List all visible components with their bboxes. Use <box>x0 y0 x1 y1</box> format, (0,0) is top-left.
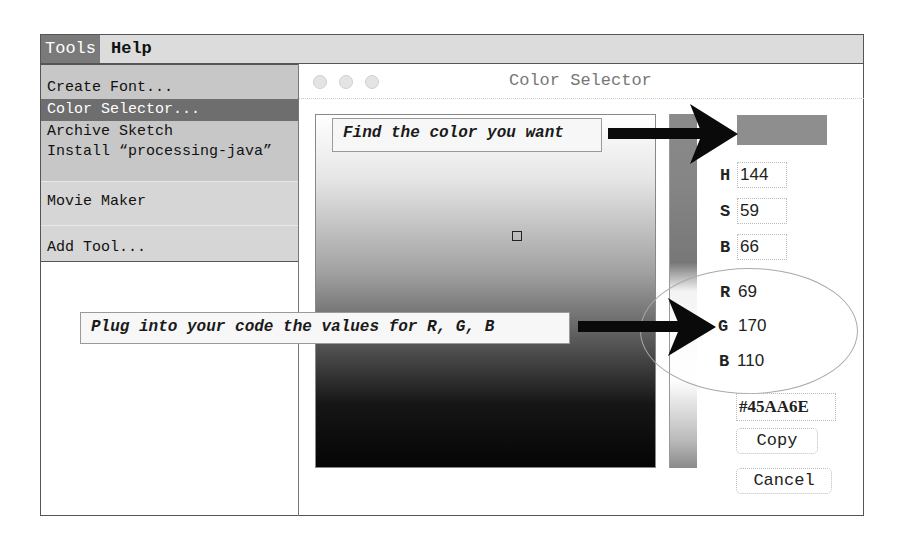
arrow-right-icon <box>668 298 716 356</box>
hex-input[interactable]: #45AA6E <box>736 393 836 421</box>
tools-dropdown: Create Font... Color Selector... Archive… <box>40 64 299 262</box>
saturation-label: S <box>720 202 730 221</box>
menu-item-movie-maker[interactable]: Movie Maker <box>41 191 298 213</box>
menu-item-add-tool[interactable]: Add Tool... <box>41 237 298 259</box>
menu-item-archive-sketch[interactable]: Archive Sketch <box>41 121 298 143</box>
arrow-right-icon <box>690 104 738 164</box>
menu-help[interactable]: Help <box>107 35 156 63</box>
hue-label: H <box>720 166 730 185</box>
menu-item-color-selector[interactable]: Color Selector... <box>41 99 298 121</box>
window-divider <box>298 64 299 516</box>
menu-item-create-font[interactable]: Create Font... <box>41 77 298 99</box>
dialog-title-bar: Color Selector <box>299 64 864 99</box>
close-window-icon[interactable] <box>313 75 327 89</box>
copy-button[interactable]: Copy <box>736 428 818 454</box>
menubar: Tools Help <box>40 34 864 64</box>
brightness-label: B <box>720 238 730 257</box>
hue-input[interactable]: 144 <box>737 162 787 188</box>
callout-plug-values: Plug into your code the values for R, G,… <box>80 312 570 344</box>
cancel-button[interactable]: Cancel <box>736 468 832 494</box>
menu-item-install-processing-java[interactable]: Install “processing-java” <box>41 141 298 163</box>
menu-tools[interactable]: Tools <box>41 35 100 63</box>
menu-separator <box>41 181 298 182</box>
color-swatch <box>737 115 827 145</box>
saturation-input[interactable]: 59 <box>737 198 787 224</box>
dialog-title: Color Selector <box>509 71 652 90</box>
minimize-window-icon[interactable] <box>339 75 353 89</box>
brightness-input[interactable]: 66 <box>737 234 787 260</box>
callout-find-color: Find the color you want <box>332 118 602 152</box>
saturation-brightness-picker[interactable] <box>315 114 656 468</box>
menu-separator <box>41 225 298 226</box>
picker-cursor-icon[interactable] <box>512 231 522 241</box>
zoom-window-icon[interactable] <box>365 75 379 89</box>
